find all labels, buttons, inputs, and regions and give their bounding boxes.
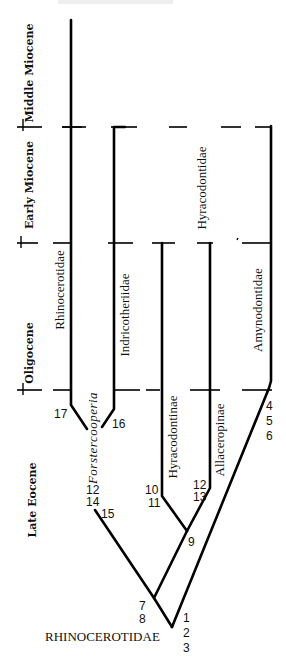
char-label: 6: [266, 429, 273, 443]
taxon-allaceropinae: Allaceropinae: [212, 403, 227, 476]
epoch-label-oligocene: Oligocene: [17, 322, 42, 395]
epoch-label-early-miocene: Early Miocene: [17, 141, 38, 248]
characters-rhinocerotidae: 17: [54, 407, 68, 421]
taxon-hyracodontidae: Hyracodontidae: [194, 146, 209, 229]
char-label: 13: [193, 490, 207, 504]
characters-amynodontidae: 4 5 6: [266, 399, 273, 443]
taxon-indricotheriidae: Indricotheriidae: [117, 273, 132, 356]
characters-hyracodontinae: 10 11: [145, 483, 161, 510]
epoch-late-eocene-text: Late Eocene: [26, 462, 39, 537]
char-label: 14: [86, 495, 100, 509]
taxon-forstercooperia: Forstercooperia: [85, 392, 100, 485]
epoch-label-late-eocene: Late Eocene: [26, 462, 39, 537]
taxon-hyracodontinae: Hyracodontinae: [165, 395, 180, 478]
char-label: 8: [139, 612, 146, 626]
char-label: 16: [112, 417, 126, 431]
epoch-oligocene-text: Oligocene: [23, 322, 36, 384]
char-label: 17: [54, 407, 68, 421]
branch-rhinocerotidae: [71, 20, 87, 429]
cutoff-header-remnant: [58, 0, 173, 4]
epoch-middle-miocene-text: Middle Miocene: [23, 23, 36, 122]
char-label: 3: [183, 641, 190, 655]
phylogeny-diagram: Middle Miocene Early Miocene Oligocene L…: [0, 0, 286, 658]
char-label: 2: [183, 626, 190, 640]
epoch-label-middle-miocene: Middle Miocene: [17, 23, 42, 131]
char-label: 11: [148, 496, 161, 510]
branch-amynodontidae: [172, 126, 271, 627]
taxon-rhinocerotidae: Rhinocerotidae: [52, 250, 67, 330]
branch-node-9-to-7: [154, 531, 187, 598]
root-label: RHINOCEROTIDAE: [45, 629, 160, 644]
characters-node-7-8: 7 8: [139, 599, 146, 626]
taxon-amynodontidae: Amynodontidae: [250, 268, 265, 352]
char-label: 7: [139, 599, 146, 613]
characters-node-9: 9: [188, 535, 195, 549]
characters-indricotheriidae: 16: [112, 417, 126, 431]
char-label: 4: [266, 399, 273, 413]
branch-hyracodontinae: [162, 243, 187, 531]
epoch-early-miocene-text: Early Miocene: [23, 141, 36, 229]
char-label: 10: [145, 483, 159, 497]
char-label: 9: [188, 535, 195, 549]
characters-root: 1 2 3: [183, 611, 190, 655]
characters-allaceropinae: 12 13: [193, 478, 207, 504]
char-label: 5: [266, 414, 273, 428]
char-label: 1: [183, 611, 190, 625]
characters-forstercooperia-stem: 12 14 15: [86, 483, 115, 521]
char-label: 15: [101, 507, 115, 521]
branch-forstercooperia-stem: [95, 510, 172, 627]
